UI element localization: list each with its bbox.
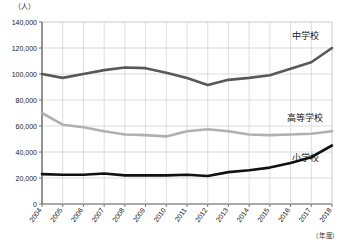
x-axis-tick-label: 2015 [256, 206, 271, 223]
x-axis-tick-label: 2010 [152, 206, 167, 223]
x-axis-tick-label: 2006 [70, 206, 85, 223]
x-axis-tick-label: 2017 [297, 206, 312, 223]
y-axis-tick-label: 80,000 [16, 97, 38, 104]
x-axis-tick-label: 2014 [235, 206, 250, 223]
x-axis-tick-label: 2011 [173, 206, 187, 222]
x-axis-tick-label: 2018 [318, 206, 333, 223]
y-axis-tick-label: 100,000 [12, 71, 37, 78]
x-axis-tick-label: 2007 [90, 206, 105, 223]
x-axis-tick-label: 2009 [132, 206, 147, 223]
series-label-高等学校: 高等学校 [287, 112, 323, 123]
y-axis-tick-label: 60,000 [16, 123, 38, 130]
series-label-小学校: 小学校 [292, 152, 319, 163]
y-axis-tick-label: 140,000 [12, 19, 37, 26]
x-axis-tick-label: 2005 [49, 206, 64, 223]
x-axis-tick-label: 2012 [194, 206, 209, 223]
y-axis-tick-label: 20,000 [16, 175, 38, 182]
line-chart: （人） （年度） 140,000120,000100,00080,00060,0… [0, 0, 348, 245]
chart-canvas: 140,000120,000100,00080,00060,00040,0002… [0, 0, 348, 245]
x-axis-tick-label: 2016 [277, 206, 292, 223]
y-axis-tick-label: 40,000 [16, 149, 38, 156]
y-axis-tick-label: 120,000 [12, 45, 37, 52]
series-label-中学校: 中学校 [292, 30, 319, 41]
x-axis-tick-label: 2004 [28, 206, 43, 223]
x-axis-tick-label: 2013 [215, 206, 230, 223]
x-axis-tick-label: 2008 [111, 206, 126, 223]
